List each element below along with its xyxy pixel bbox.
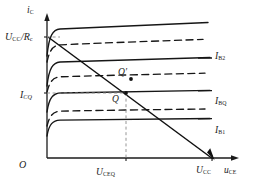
curve-solid-ibq xyxy=(47,90,210,112)
operating-point-label-q-prime: Q′ xyxy=(118,68,127,78)
curve-label-ib2: IB2 xyxy=(215,52,225,62)
x-axis-title: uCE xyxy=(224,166,237,176)
y-tick-label-icq: ICQ xyxy=(20,90,32,101)
y-tick-label-ucc-over-rc: UCC/Rc xyxy=(5,32,33,43)
curve-label-ib1: IB1 xyxy=(215,126,225,136)
curve-solid-top xyxy=(47,23,208,57)
x-tick-label-ucc: UCC xyxy=(196,166,211,176)
characteristic-curves-group xyxy=(47,23,210,137)
load-line-group xyxy=(48,37,215,160)
operating-point-label-q: Q xyxy=(112,95,119,105)
curve-label-ibq: IBQ xyxy=(215,97,227,107)
curve-solid-ib1 xyxy=(47,119,210,137)
x-tick-label-uceq: UCEQ xyxy=(96,168,115,178)
axes-group xyxy=(44,13,239,161)
load-line xyxy=(48,37,213,159)
x-axis-arrowhead xyxy=(231,155,239,160)
origin-label: O xyxy=(19,160,26,170)
curve-solid-ib2 xyxy=(47,58,210,87)
q-prime-marker xyxy=(129,77,133,81)
tick-marks-group xyxy=(44,37,212,161)
y-axis-arrowhead xyxy=(44,13,49,21)
q-marker xyxy=(124,91,128,95)
y-axis-title: iC xyxy=(27,6,34,16)
